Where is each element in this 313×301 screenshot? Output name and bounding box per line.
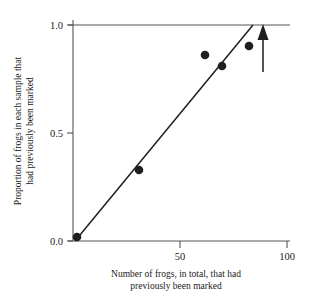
data-point [73, 233, 82, 242]
y-axis-title-line2: had previously been marked [25, 77, 35, 185]
data-point [135, 166, 144, 175]
x-tick-label-1: 50 [175, 251, 186, 262]
y-tick-label-1: 1.0 [50, 20, 63, 31]
x-tick-label-2: 100 [279, 251, 295, 262]
y-tick-label-3: 0.0 [50, 236, 63, 247]
chart-figure: 1.0 0.5 0.0 50 100 Number of frogs, in t… [0, 0, 313, 301]
data-point [201, 51, 210, 60]
y-axis-title-line1: Proportion of frogs in each sample that [13, 57, 23, 206]
scatter-plot-svg: 1.0 0.5 0.0 50 100 Number of frogs, in t… [0, 0, 313, 301]
x-axis-title-line2: previously been marked [130, 281, 222, 291]
y-tick-label-2: 0.5 [50, 128, 63, 139]
x-axis-title-line1: Number of frogs, in total, that had [111, 269, 241, 279]
data-point [218, 62, 227, 71]
data-point [245, 42, 254, 51]
plot-background [0, 0, 313, 301]
